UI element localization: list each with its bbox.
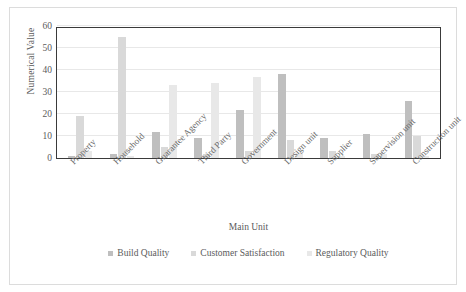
- y-tick-label: 60: [43, 22, 53, 32]
- bar: [320, 138, 328, 158]
- x-axis-title: Main Unit: [56, 222, 441, 232]
- bar: [118, 37, 126, 158]
- y-tick-label: 10: [43, 132, 53, 142]
- legend-swatch-icon: [307, 251, 312, 256]
- y-tick-label: 20: [43, 110, 53, 120]
- bar: [278, 74, 286, 158]
- bar-groups: [57, 28, 440, 158]
- y-tick-label: 40: [43, 66, 53, 76]
- legend-label: Customer Satisfaction: [200, 248, 284, 258]
- bar: [363, 134, 371, 158]
- legend-item[interactable]: Customer Satisfaction: [191, 248, 284, 258]
- y-tick-label: 50: [43, 44, 53, 54]
- legend-label: Build Quality: [117, 248, 169, 258]
- x-axis-tick-labels: PropertyHouseholdGuarantee AgencyThird P…: [56, 160, 441, 222]
- bar: [236, 110, 244, 158]
- legend-item[interactable]: Regulatory Quality: [307, 248, 389, 258]
- legend-swatch-icon: [108, 251, 113, 256]
- y-axis-tick-labels: 0102030405060: [28, 27, 52, 159]
- chart-figure: Numerical Value 0102030405060 PropertyHo…: [0, 0, 466, 292]
- y-tick-label: 0: [47, 154, 52, 164]
- legend-swatch-icon: [191, 251, 196, 256]
- plot-area: [56, 27, 441, 159]
- bar-group: [59, 28, 101, 158]
- gridline: [57, 25, 440, 26]
- chart-legend: Build QualityCustomer SatisfactionRegula…: [56, 248, 441, 258]
- legend-item[interactable]: Build Quality: [108, 248, 169, 258]
- y-tick-label: 30: [43, 88, 53, 98]
- legend-label: Regulatory Quality: [316, 248, 389, 258]
